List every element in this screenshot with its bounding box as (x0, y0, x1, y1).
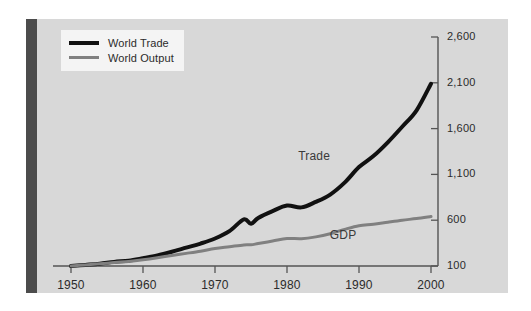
y-axis-tick-label: 100 (447, 259, 466, 271)
legend-label-world-output: World Output (108, 52, 174, 64)
x-axis-tick-label: 2000 (417, 278, 445, 292)
series-annotation-trade: Trade (298, 149, 330, 163)
x-axis-tick-label: 1980 (273, 278, 301, 292)
x-axis-tick-label: 1970 (201, 278, 229, 292)
y-axis-tick-label: 1,100 (447, 167, 476, 179)
y-axis-tick-label: 2,100 (447, 76, 476, 88)
legend: World Trade World Output (61, 30, 184, 71)
legend-swatch-world-trade (69, 41, 99, 45)
y-axis-tick-label: 600 (447, 213, 466, 225)
y-axis-tick-label: 1,600 (447, 122, 476, 134)
x-axis-tick-label: 1950 (57, 278, 85, 292)
x-axis-tick-label: 1990 (345, 278, 373, 292)
legend-item-world-trade: World Trade (69, 35, 174, 50)
legend-swatch-world-output (69, 56, 99, 59)
legend-label-world-trade: World Trade (108, 37, 169, 49)
series-group (71, 84, 431, 266)
figure-panel: World Trade World Output Trade GDP 10060… (26, 19, 508, 293)
chart-page: World Trade World Output Trade GDP 10060… (0, 0, 531, 311)
axes-group (53, 37, 438, 273)
y-axis-tick-label: 2,600 (447, 30, 476, 42)
series-line-world-trade (71, 84, 431, 266)
series-annotation-gdp: GDP (330, 228, 357, 242)
legend-item-world-output: World Output (69, 50, 174, 65)
x-axis-tick-label: 1960 (129, 278, 157, 292)
